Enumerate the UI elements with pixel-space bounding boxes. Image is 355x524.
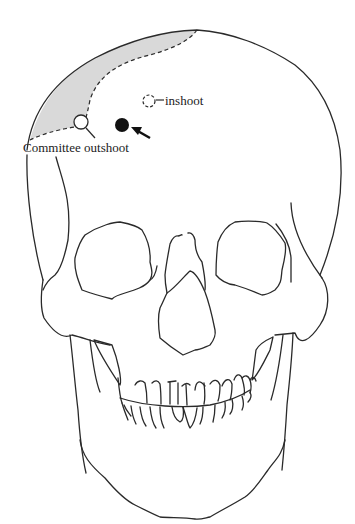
right-ramus-inner-2 [252,337,273,380]
left-ramus-inner-1 [90,340,100,392]
inshoot-label: inshoot [165,93,204,108]
left-cheek-outline [41,280,110,345]
right-ramus-outer [282,333,293,470]
arrow-icon [131,127,150,138]
shaded-bone-region [30,30,197,140]
mandible-outline [80,440,285,519]
right-ramus-inner-1 [271,335,283,400]
left-temporal-line [27,155,43,280]
lower-teeth [124,392,251,428]
inshoot-marker [143,95,155,107]
nasal-cavity [159,271,216,355]
right-eye-socket [216,221,286,295]
left-temporal-inner-line [43,157,69,290]
left-eye-socket [75,222,152,299]
committee-outshoot-label: Committee outshoot [23,140,129,155]
right-temporal-inner-line [291,203,322,278]
committee-outshoot-marker [74,115,88,129]
right-cheek-outline [275,278,328,341]
entry-wound-marker [115,118,129,132]
left-ramus-inner-2 [94,340,121,385]
skull-diagram: inshoot Committee outshoot [0,0,355,524]
outshoot-leader-line [86,128,95,138]
nasal-bone [165,233,205,293]
